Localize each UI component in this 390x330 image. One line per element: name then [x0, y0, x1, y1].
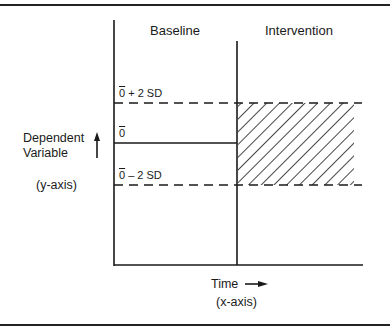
phase-label-baseline: Baseline	[150, 23, 200, 38]
upper-limit-label: 0 + 2 SD	[119, 87, 162, 99]
right-arrow-icon	[245, 281, 268, 287]
upper-limit-suffix: + 2 SD	[125, 87, 162, 99]
lower-limit-label: 0 – 2 SD	[119, 169, 162, 181]
x-axis-label-line2: (x-axis)	[216, 295, 257, 310]
lower-limit-suffix: – 2 SD	[125, 169, 162, 181]
y-axis-label-line3: (y-axis)	[36, 178, 77, 193]
y-axis-label-line1: Dependent	[23, 131, 84, 146]
mean-label: 0	[119, 127, 125, 139]
mean-symbol: 0	[119, 127, 125, 139]
x-axis-label-line1: Time	[211, 277, 238, 292]
hatched-region	[238, 103, 354, 185]
phase-label-intervention: Intervention	[265, 23, 333, 38]
up-arrow-icon	[94, 132, 100, 158]
y-axis-label-line2: Variable	[23, 146, 68, 161]
design-diagram	[0, 0, 390, 330]
